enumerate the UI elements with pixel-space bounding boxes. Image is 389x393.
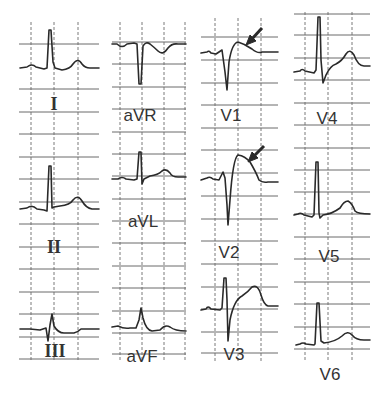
lead-label-v1: V1	[221, 106, 242, 125]
trace-lead-v2	[201, 155, 278, 225]
lead-label-avr: aVR	[123, 106, 156, 125]
arrow-annotation-v2	[248, 146, 264, 162]
grid-column-4	[294, 12, 370, 362]
trace-lead-avr	[112, 43, 186, 84]
lead-label-v5: V5	[319, 247, 340, 266]
lead-label-ii: II	[47, 237, 61, 257]
lead-label-v6: V6	[320, 365, 341, 384]
grid-column-2	[112, 22, 186, 362]
grid-column-1	[19, 22, 99, 362]
ecg-figure: I II III aVR aVL aVF	[0, 0, 389, 393]
trace-lead-v6	[296, 303, 370, 345]
lead-label-v2: V2	[219, 243, 240, 262]
lead-label-v3: V3	[224, 345, 245, 364]
lead-label-iii: III	[44, 341, 65, 361]
lead-label-avl: aVL	[128, 212, 158, 231]
trace-lead-avl	[112, 152, 186, 184]
trace-lead-ii	[20, 166, 99, 211]
lead-label-avf: aVF	[126, 347, 157, 366]
trace-lead-i	[20, 30, 99, 70]
grid-column-3	[201, 18, 278, 362]
lead-label-v4: V4	[317, 109, 338, 128]
lead-label-i: I	[50, 94, 57, 114]
